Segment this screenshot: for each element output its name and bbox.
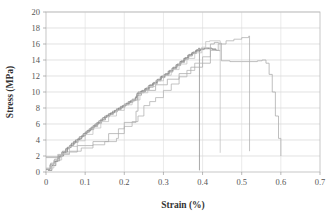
stress-strain-chart: 00.10.20.30.40.50.60.7 02468101214161820… [0, 0, 333, 218]
y-tick-label: 10 [32, 87, 41, 97]
x-tick-label: 0.2 [119, 177, 130, 187]
y-axis-title: Stress (MPa) [5, 66, 16, 118]
y-tick-label: 6 [36, 119, 40, 129]
y-tick-label: 12 [32, 71, 41, 81]
x-tick-label: 0.3 [158, 177, 169, 187]
x-tick-label: 0 [44, 177, 48, 187]
y-tick-label: 2 [36, 151, 40, 161]
y-tick-label: 16 [32, 39, 41, 49]
y-tick-label: 0 [36, 167, 40, 177]
x-axis-title: Strain (%) [161, 200, 205, 211]
x-tick-label: 0.6 [276, 177, 287, 187]
chart-canvas: 00.10.20.30.40.50.60.7 02468101214161820… [0, 0, 333, 218]
y-tick-label: 20 [32, 7, 41, 17]
y-axis-tick-labels: 02468101214161820 [32, 7, 41, 177]
y-tick-label: 8 [36, 103, 40, 113]
x-tick-label: 0.4 [197, 177, 208, 187]
y-tick-label: 4 [36, 135, 41, 145]
x-axis-tick-labels: 00.10.20.30.40.50.60.7 [44, 177, 325, 187]
y-tick-label: 14 [32, 55, 41, 65]
x-tick-label: 0.5 [236, 177, 247, 187]
y-tick-label: 18 [32, 23, 41, 33]
x-tick-label: 0.7 [315, 177, 326, 187]
x-tick-label: 0.1 [80, 177, 91, 187]
